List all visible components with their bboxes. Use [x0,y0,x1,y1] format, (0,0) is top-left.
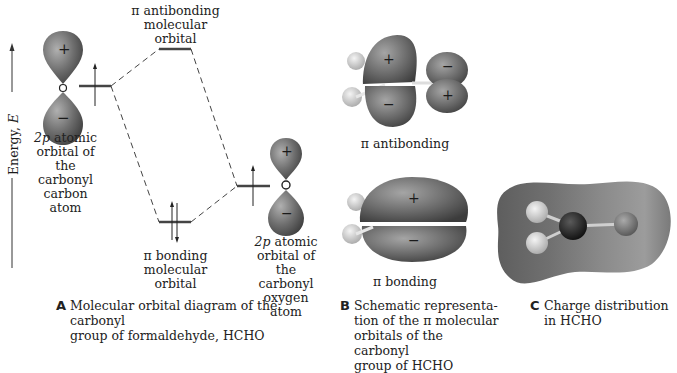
energy-axis-arrow-icon [10,43,15,51]
antibonding-carbon-top-sign: + [383,51,395,67]
dashed-line-c-bonding [111,86,159,222]
caption-b-text: Schematic representa- tion of the π mole… [354,298,500,373]
correlation-lines [111,49,237,222]
pi-antibonding-model [342,35,468,127]
carbon-nucleus-icon [60,85,67,92]
hydrogen-atom-icon [526,201,548,223]
caption-c-letter: C [530,298,540,313]
pi-bonding-model [342,177,468,262]
oxygen-lower-sign: − [281,205,293,221]
carbon-atom-icon [559,212,587,240]
antibonding-oxygen-bottom-sign: + [442,87,454,103]
carbon-lower-sign: − [57,109,70,127]
dashed-line-antibonding-o [191,49,237,186]
caption-c: C Charge distribution in HCHO [530,298,670,330]
arrow-up-icon [251,165,255,171]
antibonding-oxygen-top-sign: − [442,58,454,74]
arrow-up-icon [170,201,174,207]
bonding-mo-label: π bonding molecular orbital [128,249,223,291]
arrow-down-icon [175,237,179,243]
bonding-bottom-sign: − [408,232,420,248]
energy-axis-label: Energy, E [6,114,21,175]
bonding-top-sign: + [408,190,420,206]
caption-b: B Schematic representa- tion of the π mo… [340,298,500,358]
carbon-ao-label: 2p atomic orbital of the carbonyl carbon… [28,131,103,215]
caption-b-letter: B [340,298,350,313]
energy-axis-symbol: E [6,114,21,123]
oxygen-ao-label-prefix: 2p [255,234,271,249]
carbon-ao-label-prefix: 2p [34,130,50,145]
oxygen-nucleus-icon [282,181,290,189]
caption-a-text: Molecular orbital diagram of the carbony… [70,298,336,343]
energy-axis-text: Energy, [6,123,21,175]
hydrogen-atom-icon [347,52,365,70]
antibonding-mo-label: π antibonding molecular orbital [128,4,223,46]
pi-bonding-label: π bonding [355,275,455,289]
antibonding-carbon-bottom-sign: − [383,96,395,112]
dashed-line-c-antibonding [111,49,159,86]
carbon-upper-sign: + [58,40,71,58]
oxygen-atom-icon [614,212,638,236]
mo-energy-levels [79,49,270,243]
caption-a: A Molecular orbital diagram of the carbo… [56,298,336,330]
caption-c-text: Charge distribution in HCHO [544,298,668,328]
charge-distribution-model [497,182,671,284]
arrow-up-icon [93,63,97,69]
dashed-line-bonding-o [191,186,237,222]
hydrogen-atom-icon [526,232,548,254]
pi-antibonding-label: π antibonding [355,137,455,151]
caption-a-letter: A [56,298,66,313]
oxygen-upper-sign: + [281,143,293,159]
